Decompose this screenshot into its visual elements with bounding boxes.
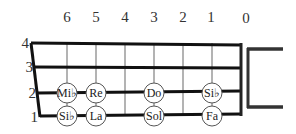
svg-text:Re: Re bbox=[89, 86, 102, 100]
open-string-bracket bbox=[247, 48, 283, 108]
fret-number: 4 bbox=[121, 9, 129, 25]
svg-text:La: La bbox=[90, 109, 103, 123]
note-marker: Si♭ bbox=[202, 83, 222, 103]
fret-number: 5 bbox=[92, 9, 100, 25]
fret-number: 3 bbox=[150, 9, 158, 25]
note-marker: Do bbox=[144, 83, 164, 103]
string-number: 4 bbox=[22, 35, 30, 51]
fret-number: 2 bbox=[179, 9, 187, 25]
svg-text:Si♭: Si♭ bbox=[204, 86, 220, 100]
note-marker: La bbox=[86, 106, 106, 126]
fret-number-labels: 6 5 4 3 2 1 0 bbox=[63, 9, 250, 26]
note-marker: Sol bbox=[144, 106, 164, 126]
string-number: 2 bbox=[29, 85, 37, 101]
svg-text:Sol: Sol bbox=[146, 109, 163, 123]
string-3 bbox=[34, 67, 241, 68]
note-markers: Mi♭ Re Do Si♭ Si♭ La Sol Fa bbox=[57, 83, 222, 126]
fretboard-left-edge bbox=[31, 43, 40, 117]
string-4 bbox=[31, 43, 241, 45]
fret-number: 6 bbox=[63, 9, 71, 25]
strings bbox=[31, 43, 241, 116]
note-marker: Re bbox=[86, 83, 106, 103]
string-number: 3 bbox=[26, 59, 34, 75]
svg-text:Mi♭: Mi♭ bbox=[57, 86, 77, 100]
svg-text:Fa: Fa bbox=[206, 109, 219, 123]
note-marker: Mi♭ bbox=[57, 83, 77, 103]
note-marker: Si♭ bbox=[57, 106, 77, 126]
fret-number: 1 bbox=[207, 9, 215, 25]
note-marker: Fa bbox=[202, 106, 222, 126]
svg-text:Do: Do bbox=[147, 86, 162, 100]
fret-lines bbox=[67, 43, 212, 116]
fretboard-diagram: 6 5 4 3 2 1 0 4 3 2 1 Mi♭ Re Do Si♭ bbox=[0, 0, 296, 134]
string-number: 1 bbox=[31, 109, 39, 125]
svg-text:Si♭: Si♭ bbox=[59, 109, 75, 123]
fret-number: 0 bbox=[242, 10, 250, 26]
